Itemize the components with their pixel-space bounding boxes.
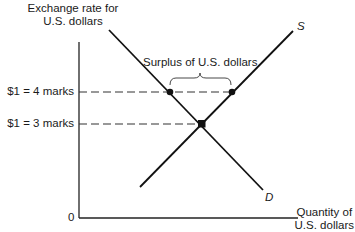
demand-label: D	[265, 191, 273, 204]
supply-point-4-marks	[229, 89, 236, 96]
tick-label-3-marks: $1 = 3 marks	[2, 117, 74, 130]
equilibrium-point	[198, 120, 206, 128]
y-axis-title-line2: U.S. dollars	[18, 15, 128, 28]
origin-label: 0	[68, 211, 74, 224]
y-axis-title-line1: Exchange rate for	[18, 2, 128, 15]
y-axis-title: Exchange rate for U.S. dollars	[18, 2, 128, 28]
x-axis-title: Quantity of U.S. dollars	[295, 206, 354, 232]
surplus-annotation: Surplus of U.S. dollars	[143, 56, 257, 69]
x-axis-title-line2: U.S. dollars	[295, 219, 354, 232]
tick-label-4-marks: $1 = 4 marks	[2, 85, 74, 98]
diagram-canvas	[0, 0, 355, 232]
demand-point-4-marks	[167, 89, 174, 96]
x-axis-title-line1: Quantity of	[295, 206, 354, 219]
demand-curve	[109, 30, 263, 190]
supply-curve	[140, 31, 293, 187]
supply-label: S	[297, 20, 305, 33]
surplus-brace	[170, 73, 231, 85]
